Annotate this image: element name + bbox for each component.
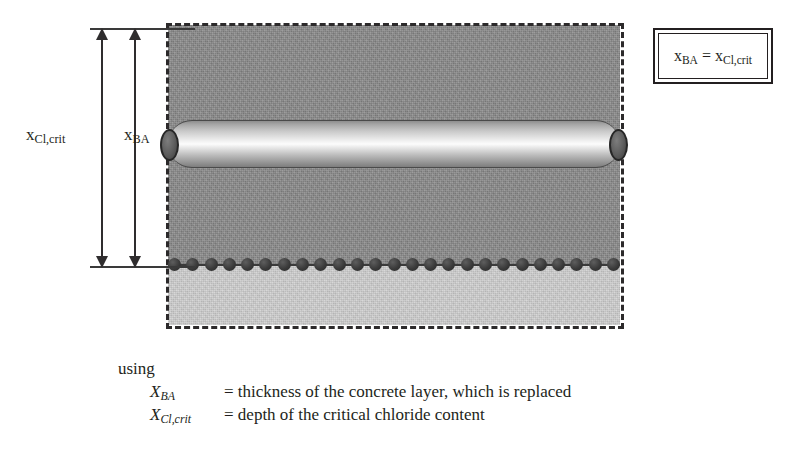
rebar-body <box>168 120 620 168</box>
chloride-dot <box>388 258 401 271</box>
chloride-dot <box>186 258 199 271</box>
caption-symbol-subscript: Cl,crit <box>160 412 191 426</box>
chloride-dot <box>223 258 236 271</box>
chloride-dot <box>534 258 547 271</box>
caption-symbol-base: X <box>150 382 160 401</box>
dimension-label-symbol: x <box>124 125 133 144</box>
rebar-end-cap-right <box>609 129 628 161</box>
equation-callout-inner-border: xBA = xCl,crit <box>658 33 768 79</box>
chloride-dot <box>296 258 309 271</box>
caption-description-text: depth of the critical chloride content <box>238 405 485 424</box>
equation-right-symbol: x <box>715 47 723 64</box>
chloride-dot <box>461 258 474 271</box>
caption-symbol-base: X <box>150 405 160 424</box>
caption-equals-sign: = <box>224 405 234 424</box>
chloride-dot <box>351 258 364 271</box>
arrow-head-down-icon <box>129 256 141 268</box>
chloride-dot <box>241 258 254 271</box>
dimension-label-subscript: Cl,crit <box>35 132 66 146</box>
dimension-label-x-cl-crit: xCl,crit <box>26 125 65 145</box>
caption-equals-sign: = <box>224 382 234 401</box>
caption-symbol-x-ba: XBA <box>150 381 224 404</box>
caption-description-text: thickness of the concrete layer, which i… <box>238 382 572 401</box>
chloride-front-marker <box>168 258 620 272</box>
reinforcement-bar <box>160 120 628 168</box>
concrete-block <box>168 25 620 325</box>
equation-text: xBA = xCl,crit <box>674 47 752 65</box>
caption-symbol-x-cl-crit: XCl,crit <box>150 404 224 427</box>
chloride-dot <box>424 258 437 271</box>
dimension-label-subscript: BA <box>133 132 150 146</box>
caption-block: using XBA = thickness of the concrete la… <box>118 358 718 427</box>
chloride-dot <box>607 258 620 271</box>
arrow-shaft <box>101 34 103 262</box>
chloride-dot <box>278 258 291 271</box>
equation-callout-box: xBA = xCl,crit <box>653 28 773 84</box>
chloride-dot <box>314 258 327 271</box>
equation-operator: = <box>698 47 715 64</box>
chloride-dot <box>369 258 382 271</box>
dimension-label-x-ba: xBA <box>124 125 150 145</box>
caption-using-label: using <box>118 358 718 381</box>
arrow-head-down-icon <box>96 256 108 268</box>
dimension-annotation-group <box>70 18 180 278</box>
chloride-dot <box>333 258 346 271</box>
arrow-head-up-icon <box>96 28 108 40</box>
arrow-head-up-icon <box>129 28 141 40</box>
dimension-arrow-x-cl-crit <box>95 28 109 268</box>
chloride-dot <box>497 258 510 271</box>
caption-symbol-subscript: BA <box>160 389 175 403</box>
concrete-zone-sound <box>168 265 620 325</box>
chloride-dot <box>442 258 455 271</box>
diagram-page: xCl,crit xBA xBA = xCl,crit using XBA = … <box>0 0 794 460</box>
dimension-label-symbol: x <box>26 125 35 144</box>
chloride-dot <box>406 258 419 271</box>
equation-right-subscript: Cl,crit <box>723 54 752 66</box>
equation-left-symbol: x <box>674 47 682 64</box>
chloride-dot <box>552 258 565 271</box>
chloride-dot <box>570 258 583 271</box>
chloride-dot <box>205 258 218 271</box>
equation-left-subscript: BA <box>682 54 698 66</box>
caption-entry-x-cl-crit: XCl,crit = depth of the critical chlorid… <box>150 404 718 427</box>
caption-description-x-ba: = thickness of the concrete layer, which… <box>224 381 571 404</box>
chloride-dot <box>589 258 602 271</box>
dimension-arrow-x-ba <box>128 28 142 268</box>
caption-entry-x-ba: XBA = thickness of the concrete layer, w… <box>150 381 718 404</box>
caption-description-x-cl-crit: = depth of the critical chloride content <box>224 404 485 427</box>
chloride-dot <box>259 258 272 271</box>
chloride-dot <box>479 258 492 271</box>
chloride-dot <box>516 258 529 271</box>
arrow-shaft <box>134 34 136 262</box>
